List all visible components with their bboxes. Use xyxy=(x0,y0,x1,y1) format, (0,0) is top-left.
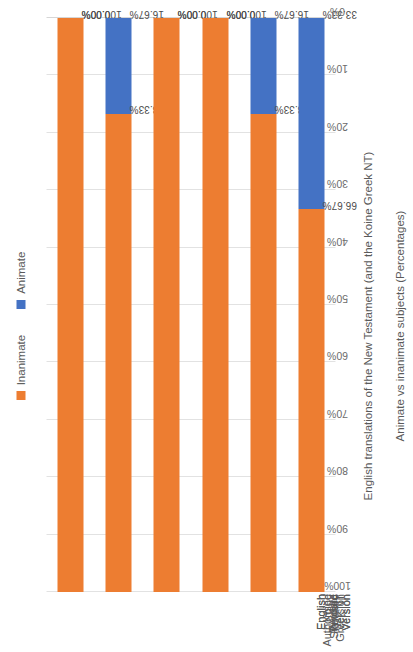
bar-segment-animate: 33.33% xyxy=(298,18,324,209)
legend-entry-inanimate: Inanimate xyxy=(14,335,26,401)
category-axis-title: English translations of the New Testamen… xyxy=(361,152,373,501)
chart-legend: Inanimate Animate xyxy=(14,0,26,652)
bar-track: 16.67%83.33% xyxy=(250,18,276,592)
legend-entry-animate: Animate xyxy=(14,252,26,309)
bar-segment-inanimate: 66.67% xyxy=(298,209,324,592)
legend-swatch-inanimate xyxy=(16,391,25,400)
bar-row: 33.33%66.67% xyxy=(298,18,324,592)
bar-segment-inanimate: 100.00% xyxy=(202,18,228,592)
bar-track: 33.33%66.67% xyxy=(298,18,324,592)
legend-label-inanimate: Inanimate xyxy=(14,335,26,386)
bar-row: 0.00%100.00% xyxy=(57,18,83,592)
bar-segment-animate: 16.67% xyxy=(250,18,276,114)
value-axis-tick: 60% xyxy=(326,350,347,362)
legend-swatch-animate xyxy=(16,300,25,309)
plot: 0.00%100.00%16.67%83.33%0.00%100.00%0.00… xyxy=(46,18,335,592)
value-axis-tick: 50% xyxy=(326,293,347,305)
bar-row: 16.67%83.33% xyxy=(250,18,276,592)
bar-track: 0.00%100.00% xyxy=(153,18,179,592)
category-label: Koine Greek NT xyxy=(320,594,345,652)
bar-segment-inanimate: 83.33% xyxy=(105,114,131,592)
value-axis-tick: 100% xyxy=(324,580,351,592)
value-axis-tick: 70% xyxy=(326,408,347,420)
bar-segment-inanimate: 100.00% xyxy=(57,18,83,592)
bar-track: 0.00%100.00% xyxy=(202,18,228,592)
bar-row: 0.00%100.00% xyxy=(202,18,228,592)
bar-segment-inanimate: 83.33% xyxy=(250,114,276,592)
value-axis-tick: 40% xyxy=(326,236,347,248)
category-axis: WycliffeTyndaleAuthorised VersionEnglish… xyxy=(46,592,335,652)
bar-row: 16.67%83.33% xyxy=(105,18,131,592)
legend-label-animate: Animate xyxy=(14,252,26,294)
value-axis-tick: 20% xyxy=(326,121,347,133)
chart-root: Inanimate Animate WycliffeTyndaleAuthori… xyxy=(0,0,413,652)
bar-track: 16.67%83.33% xyxy=(105,18,131,592)
value-axis-title: Animate vs inanimate subjects (Percentag… xyxy=(393,0,405,652)
value-axis-tick: 30% xyxy=(326,178,347,190)
chart-figure: Inanimate Animate WycliffeTyndaleAuthori… xyxy=(0,0,413,652)
bar-segment-animate: 16.67% xyxy=(105,18,131,114)
bar-row: 0.00%100.00% xyxy=(153,18,179,592)
value-axis-tick: 10% xyxy=(326,63,347,75)
bar-segment-inanimate: 100.00% xyxy=(153,18,179,592)
bar-track: 0.00%100.00% xyxy=(57,18,83,592)
plot-area: 0.00%100.00%16.67%83.33%0.00%100.00%0.00… xyxy=(46,18,335,592)
value-axis-tick: 80% xyxy=(326,465,347,477)
value-axis-tick: 0% xyxy=(329,6,344,18)
bar-series-container: 0.00%100.00%16.67%83.33%0.00%100.00%0.00… xyxy=(46,18,335,592)
value-axis-tick: 90% xyxy=(326,523,347,535)
